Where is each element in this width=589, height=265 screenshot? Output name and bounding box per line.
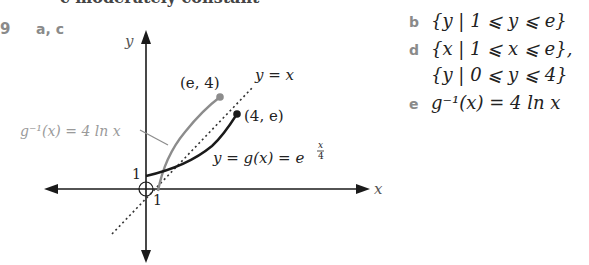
answer-label: b (409, 14, 431, 30)
y-intercept-label: 1 (132, 166, 141, 182)
answer-b: b{y | 1 ⩽ y ⩽ e} (409, 10, 567, 31)
answer-text: {x | 1 ⩽ x ⩽ e}, (431, 38, 572, 59)
answer-label: e (409, 96, 431, 112)
answer-label: d (409, 42, 431, 58)
y-axis-up-arrow-icon (141, 30, 151, 44)
g-function-exponent-denominator: 4 (318, 151, 324, 161)
x-axis-left-arrow-icon (44, 184, 58, 194)
x-axis (44, 184, 370, 194)
y-axis-label: y (124, 32, 134, 50)
answer-text: {y | 1 ⩽ y ⩽ e} (431, 10, 567, 31)
point-e-4 (216, 93, 224, 101)
point-4-e-label: (4, e) (244, 107, 284, 125)
answer-d: d{x | 1 ⩽ x ⩽ e}, (409, 38, 572, 59)
graph: y x 1 1 (e, 4) (4, e) y = x y = g(x) = e… (0, 0, 400, 265)
answer-text: g⁻¹(x) = 4 ln x (431, 92, 560, 113)
line-y-equals-x-label: y = x (254, 66, 295, 84)
x-intercept-label: 1 (153, 192, 162, 208)
y-axis-down-arrow-icon (141, 250, 151, 263)
inverse-function-label: g⁻¹(x) = 4 ln x (20, 123, 121, 139)
ginv-pointer-line (140, 130, 168, 145)
x-axis-right-arrow-icon (356, 184, 370, 194)
x-axis-label: x (374, 180, 383, 198)
g-function-label: y = g(x) = e (212, 149, 304, 167)
answer-d-continued: {y | 0 ⩽ y ⩽ 4} (409, 64, 568, 85)
answer-e: eg⁻¹(x) = 4 ln x (409, 92, 560, 113)
g-function-exponent-numerator: x (318, 140, 323, 150)
point-4-e (233, 110, 241, 118)
answer-text: {y | 0 ⩽ y ⩽ 4} (431, 64, 568, 85)
y-axis (141, 30, 151, 263)
point-e-4-label: (e, 4) (180, 74, 220, 92)
